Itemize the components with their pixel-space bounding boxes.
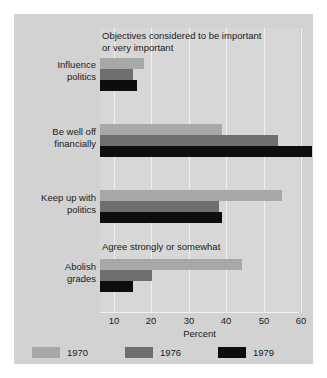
legend-label-1970: 1970 <box>67 347 88 358</box>
bar-abolish-grades-1979 <box>100 281 133 292</box>
section-header-agree: Agree strongly or somewhat <box>102 241 220 253</box>
category-label-be-well-off: Be well off financially <box>16 126 96 149</box>
bar-keep-up-politics-1979 <box>100 212 222 223</box>
category-label-keep-up-politics: Keep up with politics <box>16 192 96 215</box>
legend-item-1976: 1976 <box>125 345 181 359</box>
bar-abolish-grades-1970 <box>100 259 242 270</box>
legend-swatch-1970 <box>32 347 60 358</box>
legend-swatch-1979 <box>218 347 246 358</box>
legend-label-1976: 1976 <box>160 347 181 358</box>
x-axis-label: Percent <box>100 328 299 339</box>
bar-influence-politics-1976 <box>100 69 133 80</box>
legend-swatch-1976 <box>125 347 153 358</box>
bar-keep-up-politics-1970 <box>100 190 282 201</box>
legend-label-1979: 1979 <box>253 347 274 358</box>
tick-label-30: 30 <box>174 315 204 326</box>
category-label-abolish-grades: Abolish grades <box>16 261 96 284</box>
tick-label-50: 50 <box>249 315 279 326</box>
category-labels: Influence politics Be well off financial… <box>14 28 96 313</box>
bar-keep-up-politics-1976 <box>100 201 219 212</box>
legend-item-1970: 1970 <box>32 345 88 359</box>
tick-label-40: 40 <box>211 315 241 326</box>
bar-be-well-off-1976 <box>100 135 278 146</box>
chart-figure: Objectives considered to be important or… <box>14 14 313 364</box>
bar-abolish-grades-1976 <box>100 270 152 281</box>
bar-be-well-off-1970 <box>100 124 222 135</box>
legend-item-1979: 1979 <box>218 345 274 359</box>
gridline-60 <box>301 28 302 313</box>
gridline-30 <box>189 28 190 313</box>
tick-label-60: 60 <box>286 315 316 326</box>
section-header-objectives: Objectives considered to be important or… <box>102 30 261 53</box>
x-axis-ticks: 10 20 30 40 50 60 <box>100 315 299 329</box>
bar-be-well-off-1979 <box>100 146 312 157</box>
category-label-influence-politics: Influence politics <box>16 59 96 82</box>
plot-area: Objectives considered to be important or… <box>100 28 299 313</box>
gridline-40 <box>226 28 227 313</box>
x-axis-line <box>100 312 299 313</box>
tick-label-10: 10 <box>99 315 129 326</box>
bar-influence-politics-1979 <box>100 80 137 91</box>
bar-influence-politics-1970 <box>100 58 144 69</box>
gridline-50 <box>264 28 265 313</box>
chart-legend: 1970 1976 1979 <box>32 345 295 359</box>
tick-label-20: 20 <box>136 315 166 326</box>
